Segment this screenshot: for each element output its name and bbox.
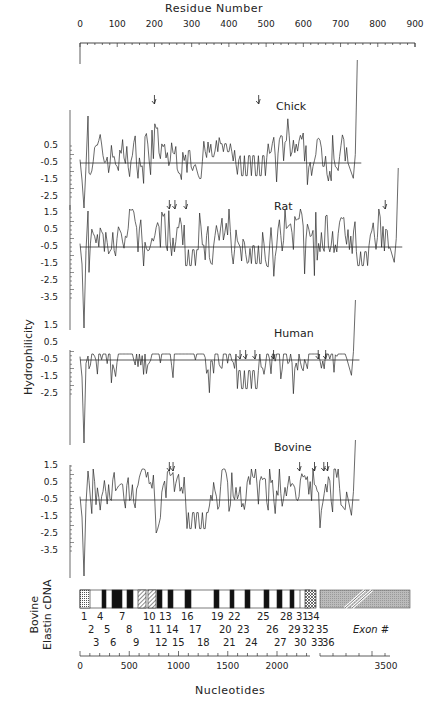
exon-number: 4 — [97, 611, 103, 622]
bottom-tick-label: 1500 — [216, 661, 239, 671]
exon-number: 9 — [133, 637, 139, 648]
exon-number: 2 — [88, 624, 94, 635]
bottom-axis-title: Nucleotides — [195, 684, 265, 697]
exon-number: 23 — [237, 624, 250, 635]
exon-number: 17 — [189, 624, 202, 635]
exon-number: 27 — [274, 637, 287, 648]
exon-number: 1 — [81, 611, 87, 622]
cdna-label-line1: Bovine — [28, 579, 41, 650]
exon-number: 22 — [228, 611, 241, 622]
exon-number: 6 — [110, 637, 116, 648]
exon-number: 10 — [143, 611, 156, 622]
exon-number: 36 — [322, 637, 335, 648]
exon-number: 7 — [119, 611, 125, 622]
exon-number: 18 — [197, 637, 210, 648]
cdna-label-line2: Elastin cDNA — [41, 579, 54, 650]
exon-number: 29 — [288, 624, 301, 635]
exon-number: 5 — [104, 624, 110, 635]
bottom-tick-label: 0 — [77, 661, 83, 671]
bottom-tick-label: 1000 — [167, 661, 190, 671]
exon-number: 26 — [266, 624, 279, 635]
bottom-tick-label: 500 — [121, 661, 138, 671]
exon-number: 16 — [181, 611, 194, 622]
exon-number: 34 — [307, 611, 320, 622]
exon-number: 15 — [172, 637, 185, 648]
exon-hash-label: Exon # — [353, 624, 389, 635]
bottom-tick-label: 2000 — [266, 661, 289, 671]
exon-number: 8 — [126, 624, 132, 635]
exon-number: 24 — [245, 637, 258, 648]
cdna-label: Bovine Elastin cDNA — [28, 579, 54, 650]
exon-number: 28 — [280, 611, 293, 622]
exon-number: 25 — [257, 611, 270, 622]
exon-number: 21 — [223, 637, 236, 648]
exon-number: 32 — [302, 624, 315, 635]
exon-number: 13 — [159, 611, 172, 622]
exon-number: 19 — [211, 611, 224, 622]
exon-number: 35 — [316, 624, 329, 635]
exon-number: 20 — [219, 624, 232, 635]
exon-number: 12 — [155, 637, 168, 648]
exon-number: 30 — [294, 637, 307, 648]
exon-number: 14 — [166, 624, 179, 635]
exon-number: 3 — [93, 637, 99, 648]
exon-number: 11 — [149, 624, 162, 635]
bottom-tick-label: 3500 — [375, 661, 398, 671]
